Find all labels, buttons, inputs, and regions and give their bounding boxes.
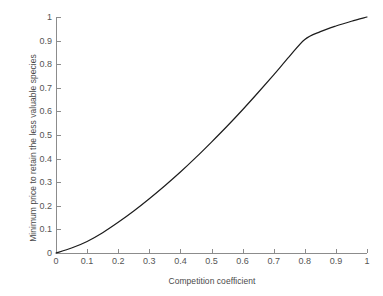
x-tick-label: 0.6 — [236, 256, 249, 266]
y-tick-label: 0.4 — [39, 154, 52, 164]
y-tick-label: 0.3 — [39, 177, 52, 187]
x-tick-label: 0.5 — [205, 256, 218, 266]
y-tick-label: 1 — [47, 12, 52, 22]
x-tick-mark — [367, 249, 368, 253]
y-tick-label: 0 — [47, 248, 52, 258]
y-tick-label: 0.7 — [39, 83, 52, 93]
series-line-minimum-price — [56, 17, 367, 253]
y-tick-label: 0.8 — [39, 59, 52, 69]
y-tick-label: 0.1 — [39, 224, 52, 234]
x-tick-label: 0.8 — [299, 256, 312, 266]
y-tick-label: 0.6 — [39, 106, 52, 116]
data-curve — [56, 17, 367, 253]
x-tick-label: 0.3 — [143, 256, 156, 266]
y-tick-label: 0.2 — [39, 201, 52, 211]
x-tick-label: 1 — [364, 256, 369, 266]
x-tick-label: 0.4 — [174, 256, 187, 266]
y-tick-label: 0.5 — [39, 130, 52, 140]
x-tick-label: 0.7 — [267, 256, 280, 266]
x-tick-label: 0.9 — [330, 256, 343, 266]
x-tick-label: 0.1 — [81, 256, 94, 266]
plot-area: 00.10.20.30.40.50.60.70.80.91 00.10.20.3… — [56, 17, 367, 253]
y-tick-mark — [57, 253, 61, 254]
x-tick-label: 0 — [53, 256, 58, 266]
x-tick-label: 0.2 — [112, 256, 125, 266]
chart-figure: Minimum price to retain the less valuabl… — [0, 0, 383, 296]
y-tick-label: 0.9 — [39, 36, 52, 46]
x-axis-line — [56, 253, 367, 254]
x-axis-title: Competition coefficient — [56, 276, 368, 286]
